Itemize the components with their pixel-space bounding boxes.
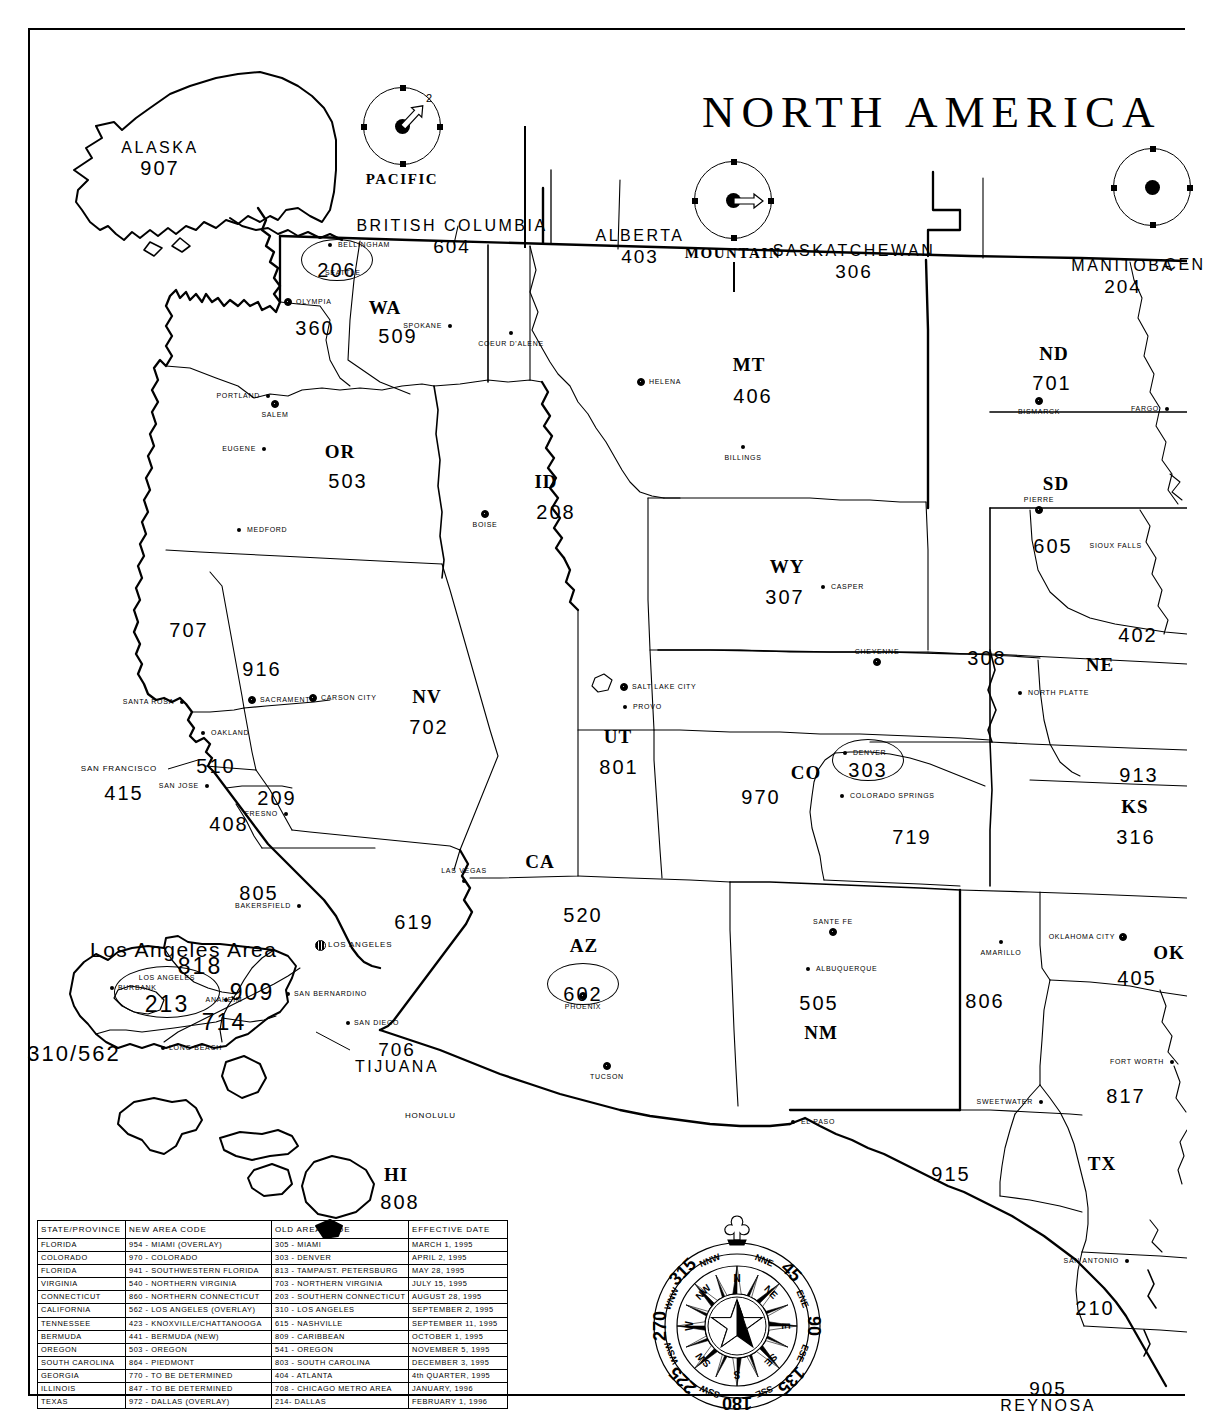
city-carson-city-label: CARSON CITY <box>321 694 377 701</box>
table-row: TEXAS972 - DALLAS (OVERLAY)214- DALLASFE… <box>38 1396 508 1409</box>
inset-city-san-bernardino-label: SAN BERNARDINO <box>294 990 367 997</box>
area-code-605: 605 <box>1033 536 1072 557</box>
city-billings-marker <box>741 445 745 449</box>
inset-area-code-213: 213 <box>145 992 189 1016</box>
city-north-platte-label: NORTH PLATTE <box>1028 689 1089 696</box>
city-fresno-label: FRESNO <box>245 810 278 817</box>
clock-tick-3 <box>1187 185 1193 191</box>
legend-cell-r12c2: 847 - TO BE DETERMINED <box>126 1383 272 1396</box>
city-los-angeles-label: LOS ANGELES <box>328 941 392 949</box>
city-salt-lake-city-label: SALT LAKE CITY <box>632 683 696 690</box>
city-denver-marker <box>843 751 847 755</box>
inset-city-los-angeles: LOS ANGELES <box>139 974 195 981</box>
area-code-805: 805 <box>239 883 278 904</box>
state-abbr-tx: TX <box>1088 1154 1116 1174</box>
city-denver-label: DENVER <box>853 749 886 756</box>
city-north-platte-marker <box>1018 691 1022 695</box>
area-code-702: 702 <box>409 717 448 738</box>
city-salem-marker <box>271 400 279 408</box>
compass-degree-270: 270 <box>650 1311 670 1341</box>
legend-cell-r8c3: 809 - CARIBBEAN <box>272 1330 409 1343</box>
city-casper-label: CASPER <box>831 583 864 590</box>
legend-table: STATE/PROVINCENEW AREA CODEOLD AREA CODE… <box>37 1220 508 1409</box>
area-code-707: 707 <box>169 620 208 641</box>
city-bellingham-marker <box>328 243 332 247</box>
clock-tick-9 <box>1111 185 1117 191</box>
area-code-408: 408 <box>209 814 248 835</box>
city-eugene-marker <box>262 447 266 451</box>
compass-point-WNW: WNW <box>662 1286 680 1312</box>
legend-cell-r6c1: CALIFORNIA <box>38 1304 126 1317</box>
legend-cell-r1c3: 305 - MIAMI <box>272 1239 409 1252</box>
province-name-saskatchewan: SASKATCHEWAN <box>773 243 935 260</box>
city-provo-marker <box>623 705 627 709</box>
state-abbr-wa: WA <box>369 298 402 318</box>
legend-cell-r7c4: SEPTEMBER 11, 1995 <box>409 1317 508 1330</box>
legend-cell-r2c4: APRIL 2, 1995 <box>409 1252 508 1265</box>
state-abbr-ks: KS <box>1121 797 1148 817</box>
state-abbr-nd: ND <box>1039 344 1068 364</box>
area-code-806: 806 <box>965 991 1004 1012</box>
area-code-505: 505 <box>799 993 838 1014</box>
legend-cell-r1c4: MARCH 1, 1995 <box>409 1239 508 1252</box>
legend-cell-r3c1: FLORIDA <box>38 1265 126 1278</box>
legend-header-3: OLD AREA CODE <box>272 1221 409 1239</box>
legend-cell-r3c3: 813 - TAMPA/ST. PETERSBURG <box>272 1265 409 1278</box>
area-code-619: 619 <box>394 912 433 933</box>
compass-cardinal-S: S <box>733 1369 740 1380</box>
city-tucson-marker <box>603 1062 611 1070</box>
inset-city-anaheim-marker <box>224 998 228 1002</box>
city-salem-label: SALEM <box>261 411 288 418</box>
legend-cell-r11c4: 4th QUARTER, 1995 <box>409 1369 508 1382</box>
city-olympia-label: OLYMPIA <box>296 298 332 305</box>
city-bismarck-marker <box>1035 397 1043 405</box>
city-olympia-marker <box>284 298 292 306</box>
area-code-520: 520 <box>563 905 602 926</box>
city-amarillo-label: AMARILLO <box>981 949 1022 956</box>
timezone-clock-mountain <box>694 161 772 239</box>
legend-cell-r3c2: 941 - SOUTHWESTERN FLORIDA <box>126 1265 272 1278</box>
city-coeur-d-alene-label: COEUR D'ALENE <box>478 340 544 347</box>
inset-city-san-diego-marker <box>346 1021 350 1025</box>
city-el-paso-marker <box>791 1120 795 1124</box>
state-abbr-ne: NE <box>1086 655 1114 675</box>
city-fargo-marker <box>1165 407 1169 411</box>
table-row: BERMUDA441 - BERMUDA (NEW)809 - CARIBBEA… <box>38 1330 508 1343</box>
city-sante-fe-marker <box>829 928 837 936</box>
legend-header-row: STATE/PROVINCENEW AREA CODEOLD AREA CODE… <box>38 1221 508 1239</box>
compass-rose: 4590135180225270315NNEENEESESSESSWWSWWNW… <box>622 1198 852 1423</box>
city-santa-rosa-label: SANTA ROSA <box>123 698 174 705</box>
legend-cell-r10c4: DECEMBER 3, 1995 <box>409 1356 508 1369</box>
city-fort-worth-marker <box>1170 1060 1174 1064</box>
state-abbr-sd: SD <box>1043 474 1069 494</box>
city-fort-worth-label: FORT WORTH <box>1110 1058 1164 1065</box>
compass-degree-90: 90 <box>804 1316 824 1336</box>
city-boise-label: BOISE <box>473 521 498 528</box>
area-code-403: 403 <box>621 247 659 267</box>
city-fargo-label: FARGO <box>1131 405 1159 412</box>
state-name-alaska: ALASKA <box>121 140 198 157</box>
city-san-francisco-label: SAN FRANCISCO <box>81 765 157 773</box>
city-helena-marker <box>637 378 645 386</box>
area-code-701: 701 <box>1032 373 1071 394</box>
city-los-angeles-marker <box>315 940 326 951</box>
city-sweetwater-label: SWEETWATER <box>977 1098 1033 1105</box>
city-coeur-d-alene-marker <box>509 331 513 335</box>
inset-area-code-310-562: 310/562 <box>27 1042 121 1065</box>
city-san-jose-label: SAN JOSE <box>159 782 199 789</box>
state-abbr-wy: WY <box>770 557 805 577</box>
legend-cell-r9c2: 503 - OREGON <box>126 1343 272 1356</box>
city-honolulu-label: HONOLULU <box>405 1112 456 1120</box>
clock-tick-12 <box>1150 146 1156 152</box>
city-sante-fe-label: SANTE FE <box>813 918 853 925</box>
legend-cell-r3c4: MAY 28, 1995 <box>409 1265 508 1278</box>
area-code-916: 916 <box>242 659 281 680</box>
clock-tick-6 <box>1150 222 1156 228</box>
area-code-306: 306 <box>835 262 873 282</box>
compass-point-NNW: NNW <box>698 1251 722 1269</box>
city-salt-lake-city-marker <box>620 683 628 691</box>
area-code-905: 905 <box>1029 1379 1067 1399</box>
area-code-402: 402 <box>1118 625 1157 646</box>
city-portland-label: PORTLAND <box>216 392 260 399</box>
city-oakland-label: OAKLAND <box>211 729 249 736</box>
